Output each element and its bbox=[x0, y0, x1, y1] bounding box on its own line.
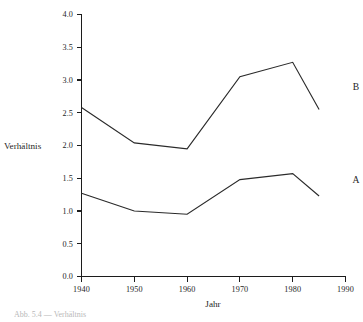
y-tick-label: 0.5 bbox=[62, 240, 73, 249]
y-tick-label: 1.0 bbox=[62, 207, 73, 216]
y-tick-label: 3.0 bbox=[62, 76, 73, 85]
series-label-b: B bbox=[353, 81, 359, 92]
y-tick-label: 4.0 bbox=[62, 10, 73, 19]
series-label-a: A bbox=[353, 174, 360, 185]
x-tick-label: 1990 bbox=[337, 285, 354, 294]
line-chart-figure: 0.0 0.5 1.0 1.5 2.0 2.5 3.0 3.5 4.0 bbox=[0, 0, 363, 322]
caption-fragment: Abb. 5.4 — Verhältnis bbox=[14, 309, 134, 320]
axis-lines bbox=[82, 15, 346, 277]
y-tick-label: 3.5 bbox=[62, 43, 73, 52]
series-line-a bbox=[82, 174, 320, 215]
series-line-b bbox=[82, 62, 320, 148]
x-tick-label: 1980 bbox=[284, 285, 301, 294]
x-tick-label: 1970 bbox=[232, 285, 249, 294]
screenshot-root: 0.0 0.5 1.0 1.5 2.0 2.5 3.0 3.5 4.0 bbox=[0, 0, 363, 322]
y-axis-title: Verhältnis bbox=[4, 141, 42, 151]
x-tick-label: 1940 bbox=[73, 285, 90, 294]
x-tick-label: 1950 bbox=[126, 285, 143, 294]
y-tick-label: 1.5 bbox=[62, 174, 73, 183]
y-tick-label: 2.0 bbox=[62, 141, 73, 150]
chart-canvas: 0.0 0.5 1.0 1.5 2.0 2.5 3.0 3.5 4.0 bbox=[0, 0, 363, 322]
y-axis-tick-labels: 0.0 0.5 1.0 1.5 2.0 2.5 3.0 3.5 4.0 bbox=[62, 10, 73, 281]
x-axis-tick-labels: 1940 1950 1960 1970 1980 1990 bbox=[73, 285, 354, 294]
y-tick-label: 2.5 bbox=[62, 109, 73, 118]
x-tick-label: 1960 bbox=[179, 285, 196, 294]
x-axis-title: Jahr bbox=[205, 299, 220, 309]
y-tick-label: 0.0 bbox=[62, 272, 73, 281]
